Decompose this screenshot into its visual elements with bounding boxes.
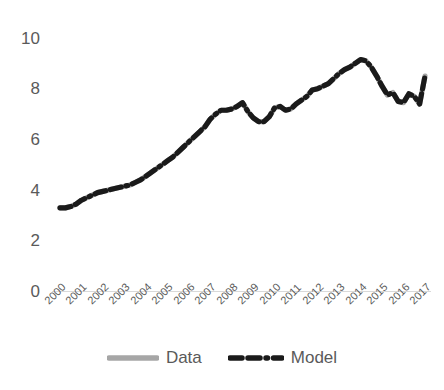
chart-legend: Data Model [0,348,444,368]
line-chart: 10 8 6 4 2 0 200020012002200320042005200… [0,0,444,390]
legend-item-data[interactable]: Data [107,348,202,368]
legend-label-model: Model [291,348,337,368]
legend-swatch-model [228,352,284,364]
legend-swatch-data [107,352,159,364]
series-line-model [60,60,425,208]
series-line-data [60,60,425,208]
legend-label-data: Data [166,348,202,368]
plot-area [0,0,444,390]
legend-item-model[interactable]: Model [228,348,337,368]
